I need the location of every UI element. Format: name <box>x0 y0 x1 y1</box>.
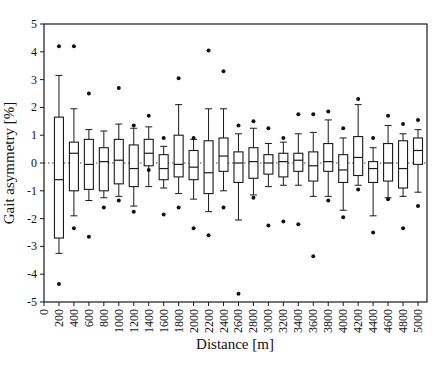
box-200m <box>54 117 63 238</box>
outlier-dot <box>177 76 181 80</box>
box-3000m <box>264 155 273 174</box>
box-1400m <box>144 139 153 165</box>
x-tick-label: 1000 <box>112 309 126 333</box>
y-tick-label: -4 <box>27 267 37 281</box>
x-tick-label: 5000 <box>411 309 425 333</box>
outlier-dot <box>87 92 91 96</box>
y-tick-label: -2 <box>27 212 37 226</box>
outlier-dot <box>251 119 255 123</box>
y-tick-label: -5 <box>27 295 37 309</box>
x-tick-label: 3200 <box>276 309 290 333</box>
outlier-dot <box>416 204 420 208</box>
outlier-dot <box>57 282 61 286</box>
outlier-dot <box>222 205 226 209</box>
outlier-dot <box>356 97 360 101</box>
box-3600m <box>309 152 318 181</box>
outlier-dot <box>236 123 240 127</box>
box-4000m <box>339 155 348 183</box>
x-tick-label: 3400 <box>291 309 305 333</box>
outlier-dot <box>416 118 420 122</box>
x-tick-label: 200 <box>52 309 66 327</box>
y-tick-label: 5 <box>31 17 37 31</box>
outlier-dot <box>117 199 121 203</box>
boxplot-figure: 0200400600800100012001400160018002000220… <box>0 0 440 367</box>
x-tick-label: 3800 <box>321 309 335 333</box>
outlier-dot <box>57 44 61 48</box>
outlier-dot <box>371 231 375 235</box>
x-tick-label: 4400 <box>366 309 380 333</box>
x-tick-label: 800 <box>97 309 111 327</box>
boxplot-chart: 0200400600800100012001400160018002000220… <box>0 0 440 367</box>
outlier-dot <box>72 44 76 48</box>
outlier-dot <box>281 219 285 223</box>
outlier-dot <box>132 123 136 127</box>
outlier-dot <box>326 110 330 114</box>
outlier-dot <box>177 205 181 209</box>
box-2600m <box>234 152 243 183</box>
box-4800m <box>399 141 408 188</box>
x-tick-label: 2800 <box>246 309 260 333</box>
outlier-dot <box>207 233 211 237</box>
outlier-dot <box>386 114 390 118</box>
outlier-dot <box>386 197 390 201</box>
y-tick-label: 1 <box>31 128 37 142</box>
x-tick-label: 4800 <box>396 309 410 333</box>
y-tick-label: 3 <box>31 73 37 87</box>
box-2800m <box>249 148 258 179</box>
x-tick-label: 2600 <box>231 309 245 333</box>
y-tick-label: -3 <box>27 239 37 253</box>
x-tick-label: 600 <box>82 309 96 327</box>
box-1600m <box>159 155 168 180</box>
x-tick-label: 400 <box>67 309 81 327</box>
box-1800m <box>174 135 183 177</box>
outlier-dot <box>192 136 196 140</box>
outlier-dot <box>147 114 151 118</box>
outlier-dot <box>87 235 91 239</box>
box-1200m <box>129 145 138 187</box>
box-2200m <box>204 141 213 194</box>
outlier-dot <box>147 168 151 172</box>
box-800m <box>99 148 108 191</box>
outlier-dot <box>266 126 270 130</box>
outlier-dot <box>326 199 330 203</box>
outlier-dot <box>251 196 255 200</box>
outlier-dot <box>236 292 240 296</box>
box-3400m <box>294 153 303 171</box>
box-4200m <box>354 137 363 176</box>
outlier-dot <box>341 215 345 219</box>
outlier-dot <box>371 136 375 140</box>
outlier-dot <box>341 126 345 130</box>
outlier-dot <box>296 222 300 226</box>
outlier-dot <box>296 112 300 116</box>
x-axis-title: Distance [m] <box>196 336 274 352</box>
y-axis-title: Gait asymmetry [%] <box>1 102 17 224</box>
y-tick-label: 4 <box>31 45 37 59</box>
outlier-dot <box>192 226 196 230</box>
x-tick-label: 3000 <box>261 309 275 333</box>
outlier-dot <box>162 136 166 140</box>
outlier-dot <box>356 187 360 191</box>
box-2400m <box>219 138 228 171</box>
x-tick-label: 1400 <box>142 309 156 333</box>
box-3200m <box>279 153 288 177</box>
box-2000m <box>189 150 198 179</box>
box-400m <box>69 142 78 191</box>
x-tick-label: 4200 <box>351 309 365 333</box>
outlier-dot <box>401 226 405 230</box>
x-tick-label: 2000 <box>187 309 201 333</box>
box-3800m <box>324 144 333 172</box>
x-tick-label: 4600 <box>381 309 395 333</box>
outlier-dot <box>132 210 136 214</box>
outlier-dot <box>102 205 106 209</box>
outlier-dot <box>117 86 121 90</box>
outlier-dot <box>207 48 211 52</box>
outlier-dot <box>311 254 315 258</box>
box-4600m <box>384 144 393 182</box>
y-tick-label: -1 <box>27 184 37 198</box>
box-1000m <box>114 139 123 183</box>
outlier-dot <box>311 112 315 116</box>
plot-area: 0200400600800100012001400160018002000220… <box>27 17 427 333</box>
outlier-dot <box>401 122 405 126</box>
x-tick-label: 2400 <box>217 309 231 333</box>
outlier-dot <box>72 226 76 230</box>
